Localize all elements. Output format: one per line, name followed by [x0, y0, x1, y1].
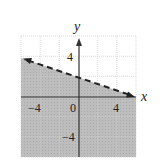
inequality-graph: y x 4 −4 0 4 −4: [0, 0, 162, 168]
y-tick-neg4: −4: [62, 130, 75, 144]
line-arrow-right-icon: [126, 92, 135, 98]
x-axis-label: x: [140, 89, 148, 104]
x-tick-neg4: −4: [28, 101, 41, 115]
y-axis-label: y: [72, 19, 81, 34]
x-tick-0: 0: [70, 101, 76, 115]
y-axis-arrow-icon: [76, 38, 82, 46]
x-tick-4: 4: [113, 101, 119, 115]
y-tick-4: 4: [67, 50, 73, 64]
